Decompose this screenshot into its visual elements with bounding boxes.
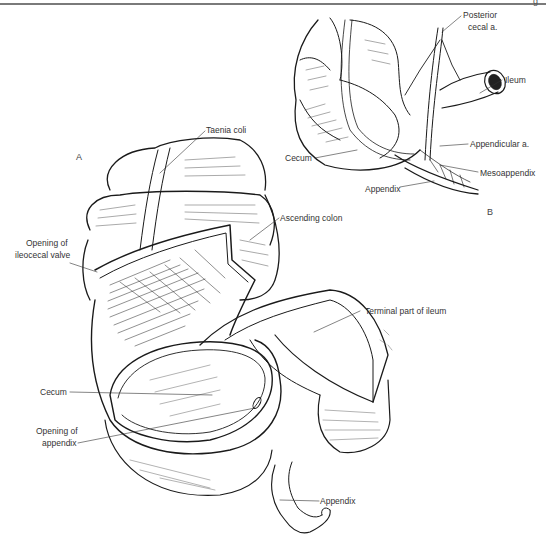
- label-mesoappendix: Mesoappendix: [480, 168, 535, 178]
- label-cecum-a: Cecum: [40, 387, 67, 397]
- label-posterior-cecal-line1: Posterior: [463, 10, 497, 20]
- label-cecum-b: Cecum: [285, 153, 312, 163]
- label-ascending-colon: Ascending colon: [280, 213, 342, 223]
- label-taenia-coli: Taenia coli: [206, 125, 246, 135]
- label-opening-ileocecal-line2: ileocecal valve: [15, 250, 70, 260]
- label-terminal-ileum: Terminal part of ileum: [365, 306, 446, 316]
- label-appendicular-artery: Appendicular a.: [470, 139, 529, 149]
- label-ileum-b: Ileum: [505, 75, 526, 85]
- label-opening-appendix-line1: Opening of: [36, 426, 78, 436]
- panel-a-drawing: [83, 138, 392, 533]
- anatomy-illustration: [0, 0, 546, 557]
- label-posterior-cecal-line2: cecal a.: [468, 22, 497, 32]
- label-appendix-b: Appendix: [365, 184, 400, 194]
- label-opening-appendix-line2: appendix: [42, 438, 77, 448]
- label-opening-ileocecal-line1: Opening of: [26, 238, 68, 248]
- label-appendix-a: Appendix: [320, 496, 355, 506]
- panel-b-drawing: [294, 18, 509, 194]
- panel-b-letter: B: [487, 207, 493, 217]
- panel-a-letter: A: [76, 152, 82, 162]
